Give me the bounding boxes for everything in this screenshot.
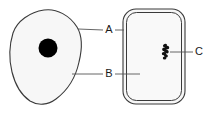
cell-group — [10, 10, 82, 105]
label-a: A — [105, 23, 113, 35]
rounded-box-group — [123, 9, 185, 104]
nucleus-dot — [39, 39, 58, 58]
label-b: B — [105, 67, 112, 79]
diagram-canvas: A B C — [0, 0, 209, 114]
label-c: C — [195, 45, 203, 57]
rounded-rectangle-inner-border — [127, 13, 182, 101]
diagram-svg: A B C — [0, 0, 209, 114]
leader-line-a-left — [78, 29, 103, 30]
